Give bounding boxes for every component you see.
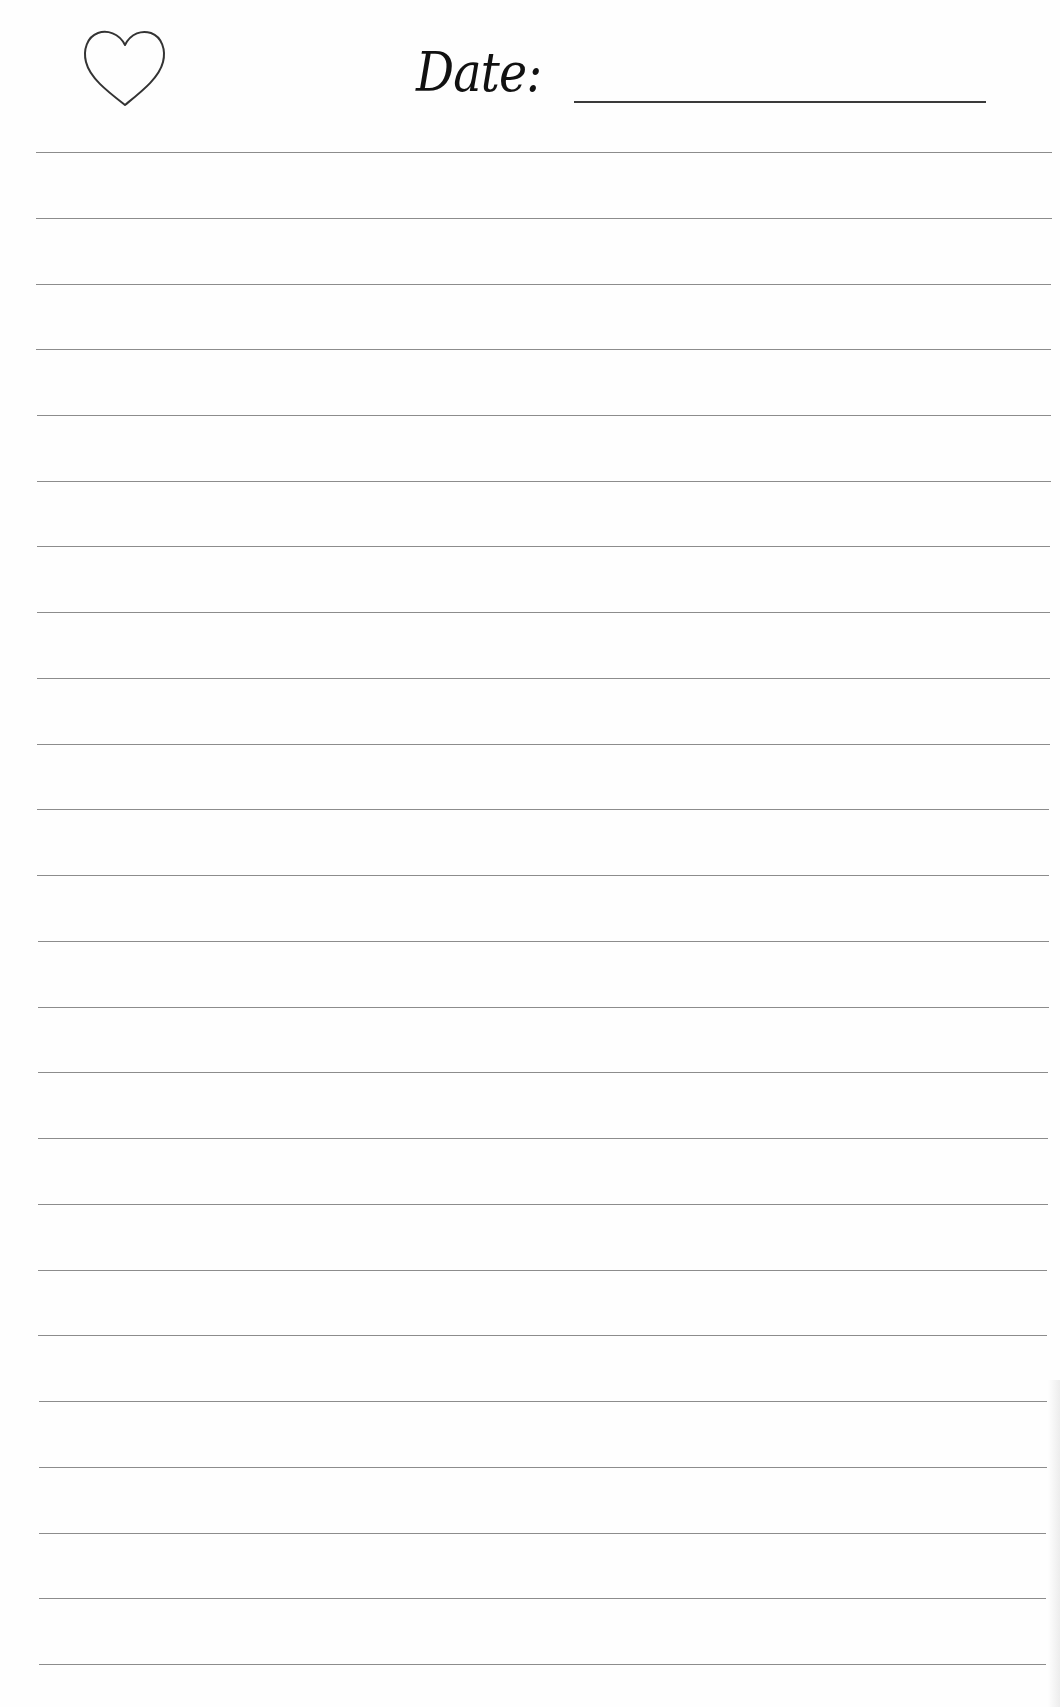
- ruled-line: [38, 1270, 1047, 1271]
- ruled-line: [39, 1664, 1046, 1665]
- ruled-line: [39, 1533, 1047, 1534]
- ruled-line: [37, 678, 1050, 679]
- ruled-line: [38, 1204, 1048, 1205]
- ruled-line: [39, 1401, 1048, 1402]
- ruled-line: [37, 546, 1051, 547]
- ruled-line: [37, 415, 1051, 416]
- ruled-line: [38, 1072, 1049, 1073]
- ruled-line: [39, 1598, 1046, 1599]
- ruled-line: [38, 1007, 1049, 1008]
- ruled-line: [36, 349, 1051, 350]
- paper-edge-shadow: [1048, 1380, 1060, 1707]
- ruled-line: [36, 218, 1052, 219]
- ruled-line: [37, 744, 1050, 745]
- ruled-line: [36, 152, 1052, 153]
- ruled-line: [39, 1467, 1047, 1468]
- ruled-line: [36, 284, 1051, 285]
- journal-page: Date:: [0, 0, 1060, 1707]
- ruled-line: [38, 941, 1049, 942]
- ruled-line: [37, 481, 1051, 482]
- ruled-line: [38, 1138, 1048, 1139]
- ruled-line: [37, 612, 1050, 613]
- ruled-line: [37, 875, 1049, 876]
- ruled-line: [38, 1335, 1047, 1336]
- ruled-line: [37, 809, 1049, 810]
- ruled-lines: [0, 0, 1060, 1707]
